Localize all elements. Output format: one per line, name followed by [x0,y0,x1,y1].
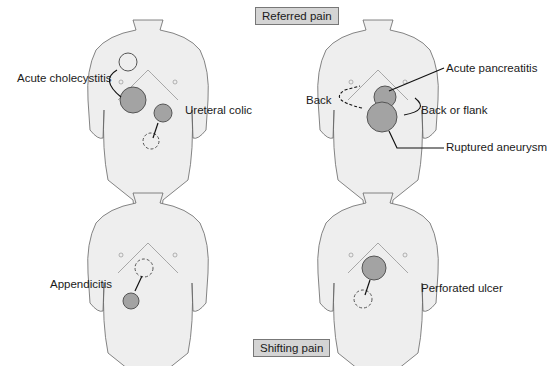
pain-circle-gallbladder [120,87,146,113]
pain-circle-ureter [154,104,172,122]
pain-circle-rlq [123,293,139,309]
label-perforated-ulcer: Perforated ulcer [421,282,503,294]
header-referred-pain: Referred pain [255,7,339,25]
label-ureteral-colic: Ureteral colic [185,104,252,116]
label-acute-pancreatitis: Acute pancreatitis [446,62,537,74]
label-acute-cholecystitis: Acute cholecystitis [17,72,112,84]
pain-circle-epigastric [362,256,386,280]
label-back: Back [306,94,332,106]
header-shifting-pain: Shifting pain [253,339,330,357]
label-back-or-flank: Back or flank [421,104,487,116]
label-ruptured-aneurysm: Ruptured aneurysm [446,141,547,153]
label-appendicitis: Appendicitis [50,278,112,290]
pain-circle-aorta [367,102,397,132]
referred-pain-circle [119,53,137,71]
